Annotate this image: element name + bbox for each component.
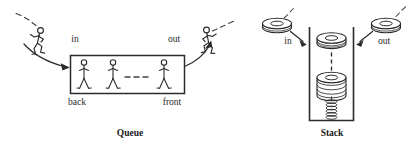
queue-stack-diagram bbox=[0, 0, 417, 149]
queue-exit-dashed-trail bbox=[213, 21, 234, 31]
queue-back-label: back bbox=[58, 97, 96, 107]
queue-box bbox=[71, 56, 185, 94]
queue-in-label: in bbox=[60, 34, 90, 44]
queue-out-label: out bbox=[158, 34, 190, 44]
queue-out-arrow bbox=[186, 41, 213, 66]
queue-diagram bbox=[16, 14, 234, 94]
stack-caption: Stack bbox=[300, 128, 364, 138]
stack-spring-icon bbox=[326, 97, 337, 120]
queue-entry-dashed-trail bbox=[16, 14, 36, 26]
stacked-disks-group-icon bbox=[317, 72, 346, 100]
running-person-leaving-icon bbox=[201, 27, 216, 53]
running-person-entering-icon bbox=[30, 28, 44, 55]
stack-out-label: out bbox=[371, 36, 397, 46]
queue-front-label: front bbox=[152, 97, 192, 107]
stack-diagram bbox=[263, 7, 406, 121]
disk-being-popped-icon bbox=[372, 18, 401, 33]
stack-entry-dashed-trail bbox=[284, 9, 294, 19]
queue-caption: Queue bbox=[90, 128, 170, 138]
disk-at-top-of-stack-icon bbox=[317, 33, 346, 49]
disk-being-pushed-icon bbox=[263, 18, 292, 33]
stack-in-label: in bbox=[277, 36, 299, 46]
stack-exit-dashed-trail bbox=[396, 7, 406, 17]
queue-in-arrow bbox=[24, 44, 70, 71]
